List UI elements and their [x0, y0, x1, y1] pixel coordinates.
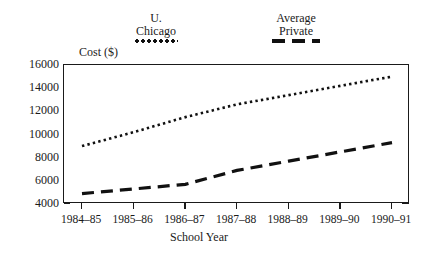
x-axis-title: School Year: [0, 230, 434, 245]
x-axis-tick: [133, 203, 134, 209]
x-axis-tick: [81, 203, 82, 209]
legend-label-u-chicago-line1: U.: [104, 12, 208, 25]
x-axis-tick-label: 1990–91: [359, 213, 423, 226]
x-axis-tick: [236, 203, 237, 209]
plot-svg: [64, 65, 410, 204]
y-axis-tick-label: 4000: [3, 197, 59, 209]
series-line-average-private: [82, 143, 392, 194]
x-axis-tick: [184, 203, 185, 209]
x-axis-title-text: School Year: [170, 230, 228, 244]
y-axis-tick-label: 14000: [3, 81, 59, 93]
y-axis-tick-label: 12000: [3, 104, 59, 116]
legend-item-average-private: Average Private: [244, 12, 348, 43]
legend-swatch-dashed-icon: [272, 39, 320, 43]
x-axis-tick: [339, 203, 340, 209]
chart-page: U. Chicago Average Private Cost ($) 1600…: [0, 0, 434, 254]
y-axis-tick-label: 16000: [3, 58, 59, 70]
y-axis-tick-label: 8000: [3, 151, 59, 163]
x-axis-ticks: [63, 203, 409, 211]
chart-legend: U. Chicago Average Private: [0, 10, 434, 48]
legend-swatch-dotted-icon: [134, 39, 178, 43]
x-axis-labels: 1984–851985–861986–871987–881988–891989–…: [0, 213, 434, 229]
y-axis-tick-label: 10000: [3, 128, 59, 140]
y-axis-title: Cost ($): [79, 45, 118, 60]
legend-label-average-private-line1: Average: [244, 12, 348, 25]
plot-area: [63, 64, 409, 203]
legend-label-average-private-line2: Private: [244, 25, 348, 38]
x-axis-tick: [391, 203, 392, 209]
legend-label-u-chicago-line2: Chicago: [104, 25, 208, 38]
legend-item-u-chicago: U. Chicago: [104, 12, 208, 43]
x-axis-tick: [288, 203, 289, 209]
series-line-u-chicago: [82, 77, 392, 147]
y-axis-tick-label: 6000: [3, 174, 59, 186]
